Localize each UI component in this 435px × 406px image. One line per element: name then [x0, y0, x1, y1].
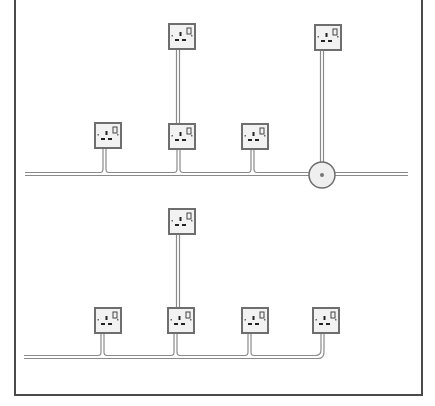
ring-socket-6 — [242, 308, 268, 333]
ring-socket-4 — [95, 308, 121, 333]
ring-socket-5 — [168, 308, 194, 333]
top-panel — [25, 24, 408, 188]
ring-socket-1 — [95, 123, 121, 148]
spur-socket-2 — [315, 25, 341, 50]
ring-socket-3 — [242, 124, 268, 149]
junction-box — [309, 162, 335, 188]
ring-socket-2 — [169, 124, 195, 149]
spur-socket-3 — [169, 209, 195, 234]
spur-socket-1 — [169, 24, 195, 49]
bottom-panel — [24, 209, 339, 359]
ring-socket-7 — [313, 308, 339, 333]
ring-main-diagram — [0, 0, 435, 406]
ring-cable-bottom — [24, 234, 324, 359]
ring-cable-top — [25, 49, 408, 176]
